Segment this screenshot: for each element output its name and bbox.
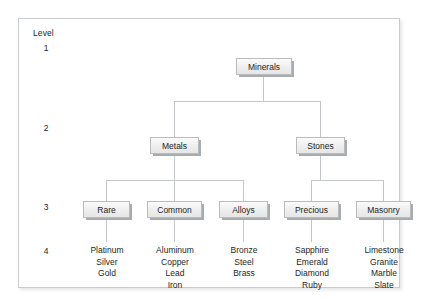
connector-to-alloys xyxy=(243,180,244,201)
leaf-column-rare: Platinum Silver Gold xyxy=(73,245,141,280)
connector-metals-stub xyxy=(174,154,175,180)
leaf-item: Brass xyxy=(211,268,277,280)
node-rare[interactable]: Rare xyxy=(83,201,130,218)
leaf-column-precious: Sapphire Emerald Diamond Ruby xyxy=(277,245,347,291)
level-caption: Level xyxy=(33,28,54,38)
node-metals[interactable]: Metals xyxy=(150,137,199,154)
leaf-item: Aluminum xyxy=(142,245,208,257)
leaf-column-alloys: Bronze Steel Brass xyxy=(211,245,277,280)
node-precious[interactable]: Precious xyxy=(284,201,339,218)
connector-stones-bus xyxy=(311,180,384,181)
connector-common-leaves xyxy=(174,218,175,242)
leaf-item: Slate xyxy=(348,280,420,292)
node-common[interactable]: Common xyxy=(147,201,202,218)
connector-to-stones xyxy=(320,101,321,137)
leaf-item: Sapphire xyxy=(277,245,347,257)
node-minerals[interactable]: Minerals xyxy=(236,58,292,75)
level-number-2: 2 xyxy=(19,123,73,133)
level-gutter: Level 1 2 3 4 xyxy=(19,19,73,287)
leaf-item: Steel xyxy=(211,257,277,269)
leaf-item: Iron xyxy=(142,280,208,292)
leaf-column-common: Aluminum Copper Lead Iron xyxy=(142,245,208,291)
connector-metals-bus xyxy=(106,180,244,181)
connector-to-precious xyxy=(311,180,312,201)
leaf-item: Emerald xyxy=(277,257,347,269)
leaf-item: Ruby xyxy=(277,280,347,292)
connector-alloys-leaves xyxy=(243,218,244,242)
node-stones[interactable]: Stones xyxy=(296,137,345,154)
leaf-item: Silver xyxy=(73,257,141,269)
leaf-item: Bronze xyxy=(211,245,277,257)
node-alloys[interactable]: Alloys xyxy=(219,201,268,218)
leaf-item: Marble xyxy=(348,268,420,280)
leaf-item: Diamond xyxy=(277,268,347,280)
level-number-1: 1 xyxy=(19,43,73,53)
level-number-4: 4 xyxy=(19,246,73,256)
connector-to-common xyxy=(174,180,175,201)
level-number-3: 3 xyxy=(19,202,73,212)
connector-to-rare xyxy=(106,180,107,201)
connector-root-bus xyxy=(174,101,321,102)
connector-to-metals xyxy=(174,101,175,137)
connector-rare-leaves xyxy=(106,218,107,242)
node-masonry[interactable]: Masonry xyxy=(356,201,411,218)
figure-frame: Level 1 2 3 4 Minerals Metals Stones Rar… xyxy=(18,18,400,288)
connector-to-masonry xyxy=(383,180,384,201)
leaf-item: Lead xyxy=(142,268,208,280)
leaf-item: Gold xyxy=(73,268,141,280)
connector-root-stub xyxy=(263,75,264,101)
leaf-item: Copper xyxy=(142,257,208,269)
leaf-item: Limestone xyxy=(348,245,420,257)
leaf-item: Platinum xyxy=(73,245,141,257)
leaf-column-masonry: Limestone Granite Marble Slate xyxy=(348,245,420,291)
connector-stones-stub xyxy=(320,154,321,180)
connector-precious-leaves xyxy=(311,218,312,242)
connector-masonry-leaves xyxy=(383,218,384,242)
leaf-item: Granite xyxy=(348,257,420,269)
